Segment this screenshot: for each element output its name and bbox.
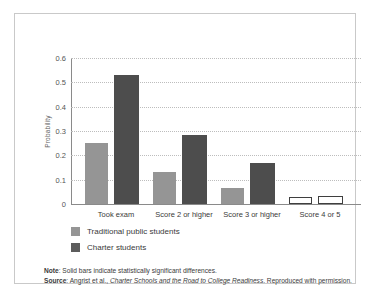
bar-traditional-score-3-or-higher[interactable] <box>221 188 244 204</box>
xtick-label-took-exam: Took exam <box>85 211 147 219</box>
ytick-label-0: 0 <box>62 201 66 209</box>
ytick-label-0.2: 0.2 <box>56 153 66 161</box>
bar-traditional-took-exam[interactable] <box>85 143 108 204</box>
footnote-note-label: Note <box>44 267 59 274</box>
legend-item-traditional[interactable]: Traditional public students <box>71 226 180 237</box>
ytick-label-0.4: 0.4 <box>56 104 66 112</box>
footnote-source-title: Charter Schools and the Road to College … <box>110 277 263 284</box>
bar-traditional-score-4-or-5[interactable] <box>289 197 312 204</box>
footnote-source-suffix: . Reproduced with permission. <box>263 277 352 284</box>
bar-group-score-4-or-5: Score 4 or 5 <box>289 58 351 204</box>
footnote-source-prefix: : Angrist et al., <box>66 277 110 284</box>
xtick-label-score-3-or-higher: Score 3 or higher <box>221 211 283 219</box>
bar-group-score-2-or-higher: Score 2 or higher <box>153 58 215 204</box>
legend-swatch-icon-traditional <box>71 227 80 236</box>
bar-charter-score-2-or-higher[interactable] <box>182 135 207 204</box>
y-axis-title-label: Probability <box>44 115 51 148</box>
xtick-label-score-2-or-higher: Score 2 or higher <box>153 211 215 219</box>
ytick-label-0.1: 0.1 <box>56 177 66 185</box>
plot-area: 0.6 0.5 0.4 0.3 0.2 0.1 0 <box>71 58 361 204</box>
bar-charter-score-4-or-5[interactable] <box>318 196 343 205</box>
bar-group-score-3-or-higher: Score 3 or higher <box>221 58 283 204</box>
chart-figure: Probability 0.6 0.5 0.4 0.3 0.2 0.1 <box>0 0 371 303</box>
bar-charter-score-3-or-higher[interactable] <box>250 163 275 204</box>
ytick-label-0.6: 0.6 <box>56 55 66 63</box>
ytick-label-0.5: 0.5 <box>56 80 66 88</box>
legend-item-charter[interactable]: Charter students <box>71 242 180 253</box>
bar-traditional-score-2-or-higher[interactable] <box>153 172 176 204</box>
legend-label-traditional: Traditional public students <box>87 228 180 236</box>
legend-swatch-icon-charter <box>71 243 80 252</box>
footnote-note-text: : Solid bars indicate statistically sign… <box>59 267 217 274</box>
footnote-note: Note: Solid bars indicate statistically … <box>44 266 364 276</box>
bar-charter-took-exam[interactable] <box>114 75 139 204</box>
footnotes: Note: Solid bars indicate statistically … <box>44 266 364 286</box>
xtick-label-score-4-or-5: Score 4 or 5 <box>289 211 351 219</box>
ytick-label-0.3: 0.3 <box>56 128 66 136</box>
bar-group-took-exam: Took exam <box>85 58 147 204</box>
gridline-0: 0 <box>71 204 361 205</box>
figure-frame: Probability 0.6 0.5 0.4 0.3 0.2 0.1 <box>14 13 356 284</box>
y-axis-title: Probability <box>41 58 53 204</box>
footnote-source: Source: Angrist et al., Charter Schools … <box>44 276 364 286</box>
footnote-source-label: Source <box>44 277 66 284</box>
chart-legend: Traditional public students Charter stud… <box>71 226 180 258</box>
legend-label-charter: Charter students <box>87 244 146 252</box>
